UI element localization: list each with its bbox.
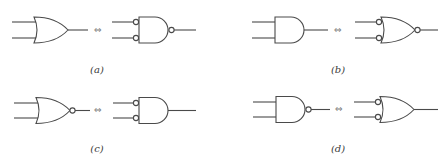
nand-gate-icon bbox=[253, 97, 330, 123]
panel-c: ⇔ bbox=[14, 98, 196, 124]
or-gate-icon bbox=[12, 17, 88, 43]
equivalence-arrow-icon: ⇔ bbox=[94, 25, 102, 35]
logic-gates-diagram: ⇔ ⇔ bbox=[0, 0, 448, 157]
panel-b: ⇔ bbox=[252, 17, 438, 43]
panel-d-label: (d) bbox=[331, 143, 345, 154]
panel-c-label: (c) bbox=[90, 143, 103, 154]
panel-b-label: (b) bbox=[331, 64, 345, 75]
equivalence-arrow-icon: ⇔ bbox=[94, 105, 102, 115]
or-inverted-inputs-gate-icon bbox=[354, 97, 438, 123]
nand-inverted-inputs-gate-icon bbox=[112, 17, 196, 43]
and-inverted-inputs-gate-icon bbox=[113, 98, 196, 124]
panel-a: ⇔ bbox=[12, 17, 196, 43]
and-gate-icon bbox=[252, 17, 328, 43]
equivalence-arrow-icon: ⇔ bbox=[335, 104, 343, 114]
nor-inverted-inputs-gate-icon bbox=[355, 17, 438, 43]
equivalence-arrow-icon: ⇔ bbox=[334, 25, 342, 35]
nor-gate-icon bbox=[14, 98, 90, 124]
panel-a-label: (a) bbox=[90, 64, 104, 75]
panel-d: ⇔ bbox=[253, 97, 438, 123]
